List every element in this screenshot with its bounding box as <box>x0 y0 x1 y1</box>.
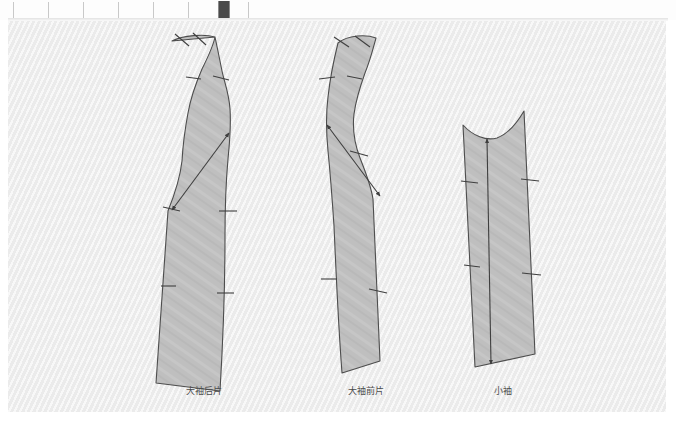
piece-label-upper-sleeve-back: 大袖后片 <box>186 384 222 397</box>
piece-label-under-sleeve: 小袖 <box>494 384 512 397</box>
ruler-tick <box>83 2 84 18</box>
ruler-tick <box>13 2 14 18</box>
piece-label-upper-sleeve-front: 大袖前片 <box>348 384 384 397</box>
ruler-position-marker[interactable] <box>218 1 230 19</box>
ruler-tick <box>118 2 119 18</box>
canvas-bottom-margin <box>0 412 676 433</box>
horizontal-ruler[interactable] <box>0 0 676 20</box>
piece-labels: 大袖后片 大袖前片 小袖 <box>8 21 666 412</box>
ruler-tick <box>188 2 189 18</box>
drawing-canvas[interactable]: 大袖后片 大袖前片 小袖 <box>8 21 666 412</box>
ruler-tick <box>48 2 49 18</box>
ruler-tick <box>248 2 249 18</box>
ruler-tick <box>153 2 154 18</box>
